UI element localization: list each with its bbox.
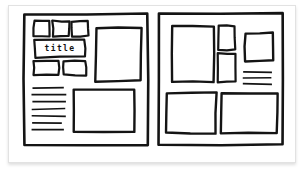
left-image-bottom — [74, 90, 135, 132]
left-thumb-3 — [71, 21, 88, 37]
left-image-top — [95, 27, 141, 81]
left-page-frame — [24, 13, 149, 145]
wireframe-sketch — [0, 0, 306, 173]
left-text-line — [32, 88, 63, 89]
left-text-line — [32, 109, 66, 110]
left-thumb-4 — [33, 61, 59, 75]
left-thumb-1 — [33, 21, 49, 37]
title-label: title — [38, 43, 82, 55]
right-side-box-bottom — [218, 53, 236, 82]
left-text-line — [32, 116, 66, 117]
right-bottom-box-right — [221, 93, 278, 133]
right-image-large — [172, 26, 214, 82]
right-side-box-top — [218, 25, 235, 50]
right-bottom-box-left — [166, 92, 217, 133]
right-image-square — [245, 33, 274, 62]
left-thumb-5 — [63, 61, 86, 76]
left-thumb-2 — [52, 20, 69, 36]
right-text-line — [243, 84, 272, 85]
sketch-canvas: title — [0, 0, 306, 173]
